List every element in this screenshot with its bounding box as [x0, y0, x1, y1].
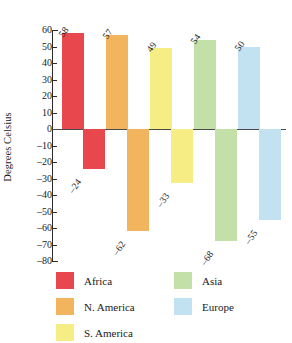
- y-axis-tick-label: 60: [22, 25, 52, 35]
- y-axis-tick: [52, 63, 57, 64]
- legend-swatch: [174, 298, 192, 315]
- bar-chart: Degrees Celsius 6050403020100–10–20–30–4…: [0, 0, 292, 343]
- y-axis-tick-label: –40: [22, 190, 52, 200]
- bar-value-label: –24: [67, 177, 84, 195]
- bar-positive: [106, 35, 128, 129]
- y-axis-tick: [52, 113, 57, 114]
- y-axis-tick-label: –20: [22, 157, 52, 167]
- y-axis-tick: [52, 228, 57, 229]
- legend-label: Africa: [84, 275, 112, 287]
- y-axis-tick-label: –10: [22, 141, 52, 151]
- y-axis-tick-label: 50: [22, 42, 52, 52]
- bar-negative: [215, 129, 237, 241]
- y-axis-title: Degrees Celsius: [2, 92, 13, 202]
- y-axis-tick-label: 30: [22, 75, 52, 85]
- y-axis-tick: [52, 162, 57, 163]
- bar-positive: [62, 33, 84, 129]
- bar-value-label: –55: [243, 228, 260, 246]
- bar-negative: [127, 129, 149, 231]
- bar-positive: [150, 48, 172, 129]
- legend-swatch: [56, 298, 74, 315]
- y-axis-tick-labels: 6050403020100–10–20–30–40–50–60–70–80: [18, 0, 52, 270]
- legend-item[interactable]: Europe: [174, 298, 234, 315]
- y-axis-tick-label: –60: [22, 223, 52, 233]
- legend-item[interactable]: Asia: [174, 272, 222, 289]
- legend-label: Asia: [202, 275, 222, 287]
- y-axis-tick: [52, 179, 57, 180]
- y-axis-tick: [52, 80, 57, 81]
- legend-swatch: [56, 324, 74, 341]
- bar-positive: [238, 47, 260, 130]
- y-axis-tick-label: 40: [22, 58, 52, 68]
- legend-label: S. America: [84, 327, 133, 339]
- y-axis-tick: [52, 245, 57, 246]
- legend-item[interactable]: Africa: [56, 272, 112, 289]
- legend-item[interactable]: S. America: [56, 324, 133, 341]
- bar-value-label: –33: [155, 192, 172, 210]
- legend-label: N. America: [84, 301, 135, 313]
- bar-value-label: –68: [199, 249, 216, 267]
- bar-value-label: –62: [111, 239, 128, 257]
- y-axis-tick-label: 0: [22, 124, 52, 134]
- y-axis-tick-label: –80: [22, 256, 52, 266]
- y-axis-tick: [52, 195, 57, 196]
- bar-negative: [259, 129, 281, 220]
- chart-legend: AfricaN. AmericaS. AmericaAsiaEurope: [56, 272, 282, 342]
- bar-positive: [194, 40, 216, 129]
- y-axis-tick-label: 20: [22, 91, 52, 101]
- y-axis-tick-label: 10: [22, 108, 52, 118]
- y-axis-tick: [52, 96, 57, 97]
- y-axis-bottom-cap: [52, 261, 58, 262]
- y-axis-tick-label: –30: [22, 174, 52, 184]
- bar-negative: [83, 129, 105, 169]
- legend-swatch: [174, 272, 192, 289]
- legend-item[interactable]: N. America: [56, 298, 135, 315]
- y-axis-tick: [52, 47, 57, 48]
- legend-swatch: [56, 272, 74, 289]
- legend-label: Europe: [202, 301, 234, 313]
- y-axis-tick: [52, 212, 57, 213]
- y-axis-tick: [52, 146, 57, 147]
- y-axis-tick-label: –70: [22, 240, 52, 250]
- y-axis-tick-label: –50: [22, 207, 52, 217]
- bar-negative: [171, 129, 193, 183]
- plot-area: Degrees Celsius 6050403020100–10–20–30–4…: [0, 0, 292, 270]
